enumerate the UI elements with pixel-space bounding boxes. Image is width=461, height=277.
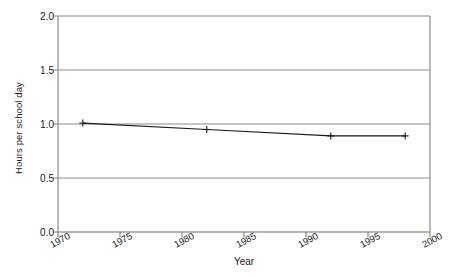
y-axis-tick-labels: 0.0 0.5 1.0 1.5 2.0	[22, 0, 54, 277]
y-tick-label: 1.5	[24, 65, 54, 76]
grid-lines	[58, 70, 430, 178]
data-series-line	[83, 123, 405, 136]
y-tick-label: 2.0	[24, 11, 54, 22]
y-tick-label: 0.0	[24, 227, 54, 238]
y-tick-label: 0.5	[24, 173, 54, 184]
x-axis-label: Year	[58, 256, 430, 267]
chart-figure: Hours per school day 0.0 0.5 1.0 1.5 2.0	[0, 0, 461, 277]
y-tick-label: 1.0	[24, 119, 54, 130]
